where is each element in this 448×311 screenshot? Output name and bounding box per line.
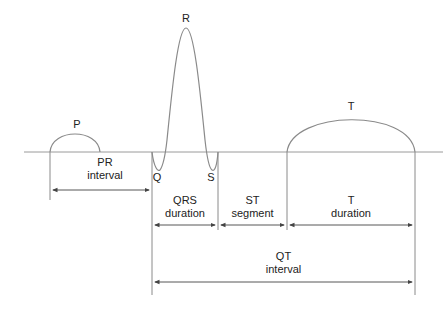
pr-interval-label: PR interval	[70, 156, 140, 182]
t-duration-label: T duration	[287, 194, 415, 220]
qrs-label-line2: duration	[152, 207, 218, 220]
pr-label-line1: PR	[70, 156, 140, 169]
pr-label-line2: interval	[70, 169, 140, 182]
qrs-label-line1: QRS	[152, 194, 218, 207]
p-wave	[50, 134, 100, 152]
st-label-line2: segment	[218, 207, 287, 220]
t-wave-label: T	[344, 100, 358, 113]
qrs-complex	[152, 28, 218, 170]
s-wave-label: S	[204, 171, 218, 184]
t-label-line1: T	[287, 194, 415, 207]
r-wave-label: R	[179, 12, 193, 25]
st-segment-label: ST segment	[218, 194, 287, 220]
q-wave-label: Q	[150, 171, 164, 184]
t-wave	[287, 120, 415, 152]
qrs-duration-label: QRS duration	[152, 194, 218, 220]
qt-label-line2: interval	[152, 263, 415, 276]
st-label-line1: ST	[218, 194, 287, 207]
qt-label-line1: QT	[152, 250, 415, 263]
qt-interval-label: QT interval	[152, 250, 415, 276]
t-label-line2: duration	[287, 207, 415, 220]
p-wave-label: P	[70, 118, 84, 131]
